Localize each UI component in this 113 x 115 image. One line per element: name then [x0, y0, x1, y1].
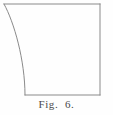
figure-concave-curve [4, 4, 25, 95]
figure-plate: Fig. 6. [0, 0, 113, 115]
figure-drawing [0, 0, 113, 100]
figure-caption: Fig. 6. [0, 98, 113, 111]
